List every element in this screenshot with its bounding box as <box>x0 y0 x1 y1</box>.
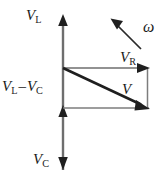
label-omega: ω <box>143 19 154 35</box>
label-v-l: VL <box>26 8 41 23</box>
omega-arc-path <box>116 24 141 49</box>
label-v-c-subscript: C <box>42 158 49 169</box>
label-v-r: VR <box>120 50 136 65</box>
label-v-symbol: V <box>122 81 131 97</box>
label-v-l-minus-v-c-symbol-1: V <box>2 78 11 94</box>
vl-minus-vc-up-arrowhead <box>58 105 67 117</box>
phasor-diagram: VL VL–VC VC VR V ω <box>0 0 166 175</box>
label-v-r-symbol: V <box>120 49 129 65</box>
label-v-c: VC <box>33 152 49 167</box>
label-v-l-minus-v-c-operator: – <box>17 78 27 94</box>
label-v-l-minus-v-c-subscript-2: C <box>36 85 43 96</box>
vertical-axis-up-arrowhead <box>58 14 68 26</box>
label-omega-symbol: ω <box>143 18 154 35</box>
label-v: V <box>122 82 131 97</box>
label-v-r-subscript: R <box>129 56 136 67</box>
label-v-c-symbol: V <box>33 151 42 167</box>
label-v-l-minus-v-c-symbol-2: V <box>27 78 36 94</box>
label-v-l-symbol: V <box>26 7 35 23</box>
label-v-l-subscript: L <box>35 14 41 25</box>
label-v-l-minus-v-c: VL–VC <box>2 79 43 94</box>
vc-down-arrowhead <box>58 157 68 170</box>
omega-arrowhead <box>111 19 124 30</box>
label-v-l-minus-v-c-subscript-1: L <box>11 85 17 96</box>
